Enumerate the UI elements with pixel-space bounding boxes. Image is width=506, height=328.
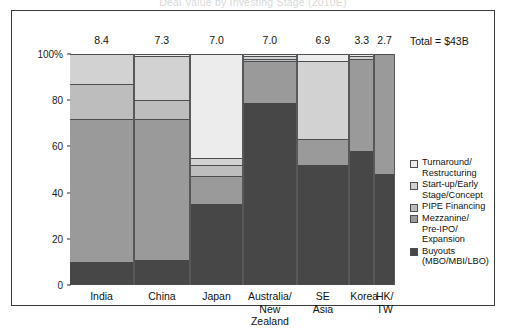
legend-swatch-icon <box>410 182 418 190</box>
y-tick-label: 40 <box>23 187 63 198</box>
legend-label: PIPE Financing <box>422 201 485 212</box>
legend-label: Start-up/EarlyStage/Concept <box>422 179 483 200</box>
bar-segment[interactable] <box>298 54 349 61</box>
x-axis-category-line: India <box>70 290 133 303</box>
bar-value-label: 8.4 <box>70 34 133 46</box>
bar-segment[interactable] <box>191 158 242 165</box>
bar-group: 8.4India7.3China7.0Japan7.0Australia/New… <box>70 54 395 285</box>
x-axis-category-label: SEAsia <box>298 290 349 315</box>
legend-label: Turnaround/Restructuring <box>422 157 477 178</box>
legend-label-line: Stage/Concept <box>422 190 483 201</box>
bar-segment[interactable] <box>70 54 133 84</box>
bar-segment[interactable] <box>244 54 295 56</box>
bar-segment[interactable] <box>135 54 189 56</box>
bar-column[interactable]: 8.4India <box>70 54 134 285</box>
bar-segment[interactable] <box>191 54 242 158</box>
bar-column[interactable]: 7.0Australia/New Zealand <box>243 54 296 285</box>
legend-label-line: Pre-IPO/ <box>422 224 469 235</box>
bar-value-label: 7.0 <box>191 34 242 46</box>
legend-item[interactable]: Start-up/EarlyStage/Concept <box>410 179 506 200</box>
total-annotation: Total = $43B <box>410 35 469 47</box>
legend-label-line: (MBO/MBI/LBO) <box>422 256 489 267</box>
bar-value-label: 6.9 <box>298 34 349 46</box>
bar-column[interactable]: 7.3China <box>134 54 190 285</box>
bar-segment[interactable] <box>244 59 295 61</box>
bar-segment[interactable] <box>135 260 189 285</box>
legend-item[interactable]: Mezzanine/Pre-IPO/Expansion <box>410 213 506 245</box>
x-axis-category-line: Korea <box>350 290 373 303</box>
bar-segment[interactable] <box>375 54 394 174</box>
x-axis-category-label: India <box>70 290 133 303</box>
bar-segment[interactable] <box>135 100 189 118</box>
bar-segment[interactable] <box>70 84 133 119</box>
legend-label-line: Buyouts <box>422 246 489 257</box>
legend-label-line: Turnaround/ <box>422 157 477 168</box>
bar-segment[interactable] <box>191 176 242 204</box>
bar-column[interactable]: 2.7HK/TW <box>374 54 395 285</box>
bar-segment[interactable] <box>70 262 133 285</box>
bar-segment[interactable] <box>244 103 295 285</box>
chart-frame: Total = $43B 020406080100% 8.4India7.3Ch… <box>11 10 495 306</box>
y-tick-label: 20 <box>23 233 63 244</box>
x-axis-category-line: China <box>135 290 189 303</box>
x-axis-category-line: Asia <box>298 303 349 316</box>
x-axis-category-line: Australia/ <box>244 290 295 303</box>
legend-label-line: Expansion <box>422 234 469 245</box>
x-axis-category-line: HK/ <box>375 290 394 303</box>
bar-segment[interactable] <box>350 59 373 151</box>
y-tick-label: 0 <box>23 280 63 291</box>
legend-label-line: Start-up/Early <box>422 179 483 190</box>
legend-label-line: Restructuring <box>422 168 477 179</box>
bar-segment[interactable] <box>298 61 349 140</box>
bar-segment[interactable] <box>70 119 133 262</box>
bar-value-label: 3.3 <box>350 34 373 46</box>
legend-item[interactable]: Buyouts(MBO/MBI/LBO) <box>410 246 506 267</box>
plot-area: 020406080100% 8.4India7.3China7.0Japan7.… <box>70 54 395 285</box>
page-title: Deal Value by Investing Stage (2010E) <box>0 0 506 8</box>
x-axis-category-line: TW <box>375 303 394 316</box>
bar-segment[interactable] <box>244 61 295 103</box>
chart-legend: Turnaround/RestructuringStart-up/EarlySt… <box>410 157 506 268</box>
bar-value-label: 2.7 <box>375 34 394 46</box>
legend-swatch-icon <box>410 215 418 223</box>
bar-value-label: 7.0 <box>244 34 295 46</box>
x-axis-category-label: Korea <box>350 290 373 303</box>
legend-label-line: PIPE Financing <box>422 201 485 212</box>
bar-segment[interactable] <box>135 56 189 100</box>
bar-segment[interactable] <box>298 165 349 285</box>
legend-item[interactable]: Turnaround/Restructuring <box>410 157 506 178</box>
bar-column[interactable]: 3.3Korea <box>349 54 374 285</box>
bar-column[interactable]: 6.9SEAsia <box>297 54 350 285</box>
legend-swatch-icon <box>410 248 418 256</box>
x-axis-category-line: Japan <box>191 290 242 303</box>
bar-segment[interactable] <box>135 119 189 260</box>
x-axis-category-label: China <box>135 290 189 303</box>
legend-label: Mezzanine/Pre-IPO/Expansion <box>422 213 469 245</box>
bar-value-label: 7.3 <box>135 34 189 46</box>
legend-swatch-icon <box>410 160 418 168</box>
bar-segment[interactable] <box>375 174 394 285</box>
x-axis-category-line: New Zealand <box>244 303 295 328</box>
legend-label: Buyouts(MBO/MBI/LBO) <box>422 246 489 267</box>
bar-segment[interactable] <box>298 139 349 164</box>
y-tick-label: 60 <box>23 141 63 152</box>
legend-label-line: Mezzanine/ <box>422 213 469 224</box>
x-axis-category-line: SE <box>298 290 349 303</box>
bar-segment[interactable] <box>350 56 373 58</box>
bar-segment[interactable] <box>350 151 373 285</box>
bar-column[interactable]: 7.0Japan <box>190 54 243 285</box>
y-tick-label: 100% <box>23 49 63 60</box>
bar-segment[interactable] <box>191 204 242 285</box>
legend-swatch-icon <box>410 204 418 212</box>
legend-item[interactable]: PIPE Financing <box>410 201 506 212</box>
x-axis-category-label: Japan <box>191 290 242 303</box>
bar-segment[interactable] <box>350 54 373 56</box>
x-axis-category-label: Australia/New Zealand <box>244 290 295 328</box>
bar-segment[interactable] <box>191 165 242 177</box>
y-tick-label: 80 <box>23 95 63 106</box>
x-axis-category-label: HK/TW <box>375 290 394 315</box>
bar-segment[interactable] <box>244 56 295 58</box>
